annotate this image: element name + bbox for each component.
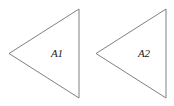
shape-group-a1: A1 [9,9,79,98]
triangle-a1 [9,9,79,98]
triangle-a2-label: A2 [137,47,151,59]
triangle-a1-label: A1 [50,47,63,59]
shape-group-a2: A2 [96,9,166,98]
triangle-a2 [96,9,166,98]
figure-svg: A1 A2 [0,0,174,106]
geometry-figure: A1 A2 [0,0,174,106]
